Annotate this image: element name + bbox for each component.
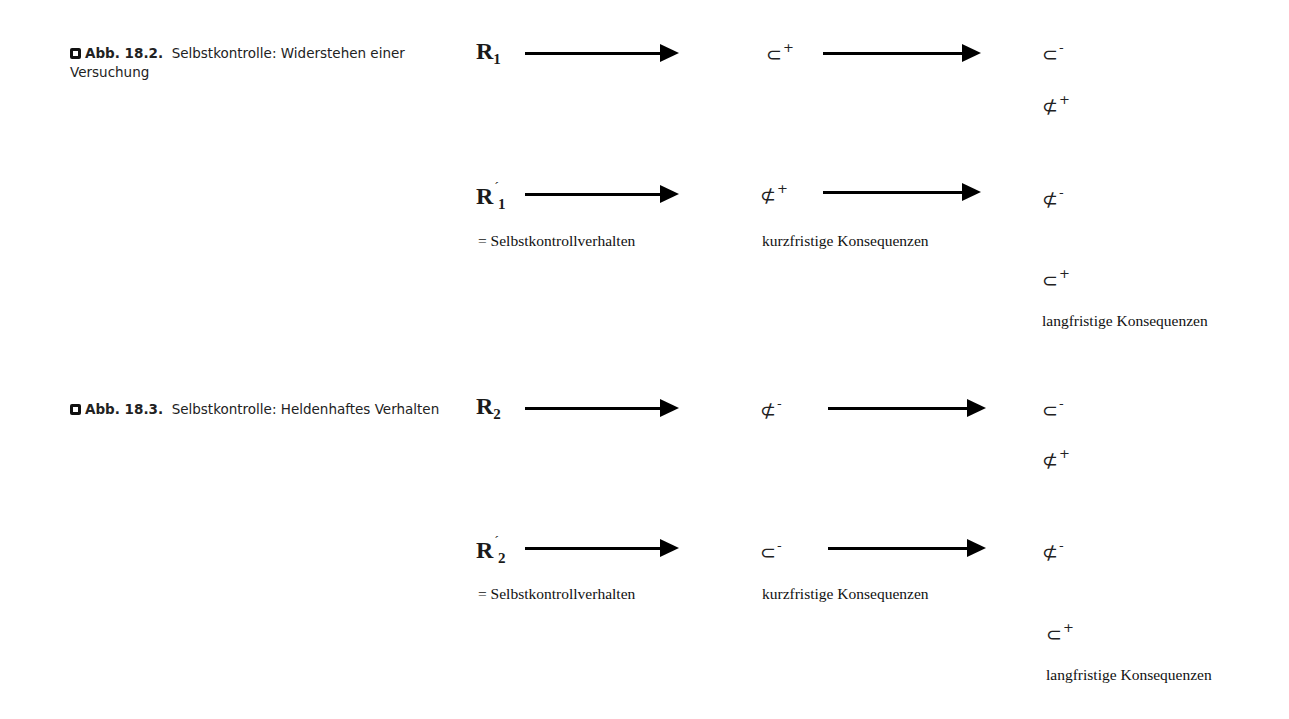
arrow-right	[823, 52, 977, 55]
right-consequence: ⊄-	[1042, 538, 1064, 563]
figure-caption-18-3: Abb. 18.3. Selbstkontrolle: Heldenhaftes…	[70, 400, 455, 419]
arrow-right	[823, 191, 977, 194]
middle-consequence: ⊂-	[760, 538, 782, 563]
middle-consequence: ⊄+	[760, 181, 788, 206]
caption-number: Abb. 18.3.	[85, 401, 163, 417]
short-term-note: kurzfristige Konsequenzen	[762, 232, 929, 250]
caption-square-icon	[70, 48, 81, 59]
short-term-note: kurzfristige Konsequenzen	[762, 585, 929, 603]
response-r2-prime: R´2	[476, 537, 506, 567]
response-r1: R1	[476, 38, 501, 68]
right-consequence: ⊂+	[1042, 266, 1070, 291]
middle-consequence: ⊄-	[760, 396, 782, 421]
arrow-right	[828, 547, 982, 550]
arrow-right	[525, 193, 675, 196]
middle-consequence: ⊂+	[766, 40, 794, 65]
long-term-note: langfristige Konsequenzen	[1046, 666, 1212, 684]
right-consequence: ⊂-	[1042, 396, 1064, 421]
arrow-right	[828, 407, 982, 410]
response-r2: R2	[476, 393, 501, 423]
right-consequence: ⊄+	[1042, 92, 1070, 117]
caption-text: Selbstkontrolle: Heldenhaftes Verhalten	[172, 401, 440, 417]
right-consequence: ⊂+	[1046, 620, 1074, 645]
right-consequence: ⊂-	[1042, 40, 1064, 65]
right-consequence: ⊄+	[1042, 446, 1070, 471]
long-term-note: langfristige Konsequenzen	[1042, 312, 1208, 330]
figure-caption-18-2: Abb. 18.2. Selbstkontrolle: Widerstehen …	[70, 44, 455, 82]
response-note: = Selbstkontrollverhalten	[478, 232, 635, 250]
caption-square-icon	[70, 404, 81, 415]
response-note: = Selbstkontrollverhalten	[478, 585, 635, 603]
arrow-right	[525, 547, 675, 550]
arrow-right	[525, 407, 675, 410]
response-r1-prime: R´1	[476, 183, 506, 213]
caption-number: Abb. 18.2.	[85, 45, 163, 61]
arrow-right	[525, 52, 675, 55]
right-consequence: ⊄-	[1042, 185, 1064, 210]
